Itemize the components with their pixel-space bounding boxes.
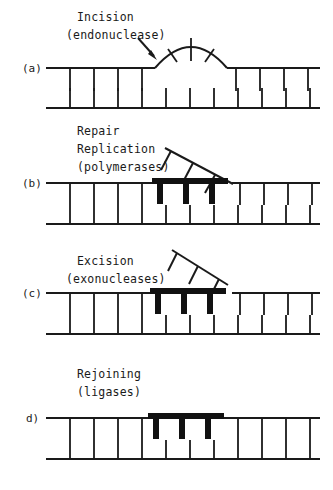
panel-c-label: (c) <box>22 287 42 300</box>
panel-a-label: (a) <box>22 62 42 75</box>
panel-b-caption-line2: Replication <box>77 142 155 156</box>
panel-b-label: (b) <box>22 177 42 190</box>
panel-a-caption-line1: Incision <box>77 10 134 24</box>
panel-b-caption-line3: (polymerases) <box>77 160 170 174</box>
panel-c-new-strand-bar <box>150 288 226 294</box>
panel-d-repaired-patch-bar <box>148 413 224 419</box>
excision-repair-figure: Incision (endonuclease) (a) <box>0 0 333 490</box>
panel-b-new-strand-bar <box>152 178 228 184</box>
panel-c-caption-line2: (exonucleases) <box>66 272 166 286</box>
panel-a-caption-line2: (endonuclease) <box>66 28 166 42</box>
panel-b-caption-line1: Repair <box>77 124 120 138</box>
panel-c-caption-line1: Excision <box>77 254 134 268</box>
panel-d-caption-line1: Rejoining <box>77 367 141 381</box>
panel-d-caption-line2: (ligases) <box>77 385 141 399</box>
panel-d-label: d) <box>26 412 39 425</box>
